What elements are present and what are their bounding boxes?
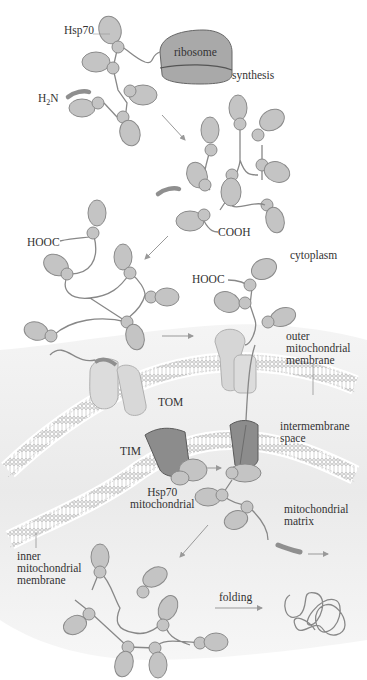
label-cytoplasm: cytoplasm: [290, 249, 337, 261]
label-tom: TOM: [158, 396, 183, 408]
label-outer-membrane: outer mitochondrial membrane: [286, 330, 351, 366]
label-cooh: COOH: [218, 226, 251, 238]
signal-sequence: [68, 91, 89, 97]
label-tim: TIM: [120, 445, 141, 457]
label-mitochondrial-matrix: mitochondrial matrix: [284, 503, 349, 527]
label-hsp70-mitochondrial: Hsp70 mitochondrial: [130, 486, 195, 510]
label-inner-membrane: inner mitochondrial membrane: [17, 550, 82, 586]
hsp70-cluster-2: [176, 95, 293, 235]
label-synthesis: synthesis: [232, 69, 274, 81]
signal-sequence-2: [158, 188, 179, 194]
label-hooc-left: HOOC: [27, 236, 60, 248]
label-hsp70-cytosolic: Hsp70: [64, 24, 94, 36]
arrow-2: [145, 236, 168, 259]
label-hooc-right: HOOC: [192, 273, 225, 285]
hsp70-cluster-3: [22, 200, 179, 352]
label-intermembrane-space: intermembrane space: [280, 420, 350, 444]
polypeptide-chain: [122, 47, 160, 63]
label-folding: folding: [219, 591, 252, 603]
label-h2n: H2N: [38, 92, 59, 109]
label-ribosome: ribosome: [174, 46, 217, 58]
arrow-1: [162, 115, 185, 140]
